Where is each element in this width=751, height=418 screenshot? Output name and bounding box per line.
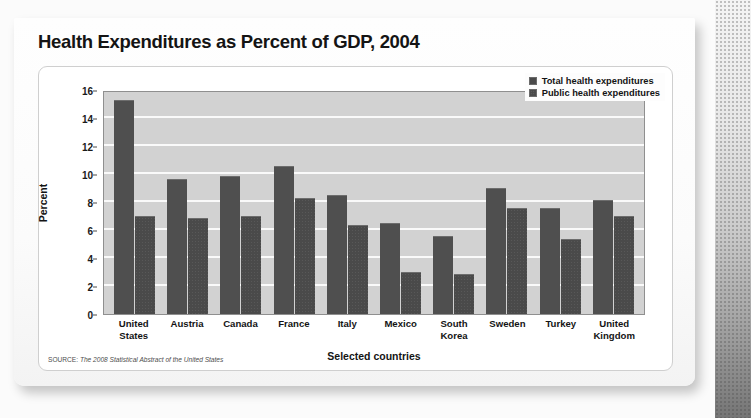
- bar-group: [486, 92, 527, 314]
- x-tick-label: Canada: [219, 318, 262, 341]
- source-note: SOURCE: The 2008 Statistical Abstract of…: [48, 356, 223, 363]
- bar-public: [454, 274, 474, 314]
- legend-label: Total health expenditures: [542, 76, 654, 86]
- x-tick-label: Austria: [166, 318, 209, 341]
- plot-area: [103, 91, 645, 315]
- bar-total: [486, 188, 506, 314]
- bar-group: [327, 92, 368, 314]
- y-tick-mark: [93, 203, 97, 204]
- bar-public: [401, 272, 421, 314]
- bar-total: [380, 223, 400, 314]
- bar-group: [433, 92, 474, 314]
- bar-total: [114, 100, 134, 314]
- y-tick-label: 16: [82, 86, 93, 97]
- bar-public: [295, 198, 315, 314]
- bar-public: [561, 239, 581, 314]
- bars-layer: [104, 92, 644, 314]
- legend-swatch-icon: [529, 89, 537, 97]
- legend-item: Public health expenditures: [529, 88, 660, 98]
- bar-public: [614, 216, 634, 314]
- x-tick-label: Turkey: [539, 318, 582, 341]
- bar-group: [220, 92, 261, 314]
- legend-swatch-icon: [529, 77, 537, 85]
- bar-group: [380, 92, 421, 314]
- bar-public: [507, 208, 527, 314]
- x-tick-label: Italy: [326, 318, 369, 341]
- y-tick-mark: [93, 147, 97, 148]
- y-axis-title: Percent: [37, 91, 51, 315]
- y-tick-mark: [93, 287, 97, 288]
- source-title: The 2008 Statistical Abstract of the Uni…: [80, 356, 223, 363]
- y-tick-mark: [93, 91, 97, 92]
- legend-label: Public health expenditures: [542, 88, 660, 98]
- y-tick-mark: [93, 259, 97, 260]
- plot-wrapper: [103, 91, 645, 315]
- source-prefix: SOURCE:: [48, 356, 78, 363]
- chart-frame: Percent 0246810121416 UnitedStatesAustri…: [38, 66, 673, 371]
- y-tick-mark: [93, 175, 97, 176]
- x-tick-label: UnitedKingdom: [593, 318, 636, 341]
- y-tick-mark: [93, 231, 97, 232]
- y-tick-label: 14: [82, 114, 93, 125]
- y-axis-ticks: 0246810121416: [69, 91, 97, 315]
- chart-card: Health Expenditures as Percent of GDP, 2…: [14, 18, 695, 386]
- bar-group: [114, 92, 155, 314]
- bar-public: [135, 216, 155, 314]
- chart-legend: Total health expendituresPublic health e…: [525, 73, 665, 101]
- page-edge-texture: [715, 0, 751, 418]
- x-tick-label: Mexico: [379, 318, 422, 341]
- bar-group: [593, 92, 634, 314]
- x-tick-label: Sweden: [486, 318, 529, 341]
- x-tick-label: France: [272, 318, 315, 341]
- y-tick-mark: [93, 315, 97, 316]
- bar-total: [327, 195, 347, 314]
- x-tick-label: SouthKorea: [433, 318, 476, 341]
- y-tick-label: 10: [82, 170, 93, 181]
- bar-total: [167, 179, 187, 314]
- bar-total: [540, 208, 560, 314]
- y-tick-mark: [93, 119, 97, 120]
- bar-public: [188, 218, 208, 314]
- bar-group: [540, 92, 581, 314]
- page-title: Health Expenditures as Percent of GDP, 2…: [38, 31, 420, 53]
- x-tick-label: UnitedStates: [112, 318, 155, 341]
- bar-total: [433, 236, 453, 314]
- bar-public: [241, 216, 261, 314]
- bar-total: [220, 176, 240, 314]
- bar-group: [274, 92, 315, 314]
- y-tick-label: 12: [82, 142, 93, 153]
- legend-item: Total health expenditures: [529, 76, 660, 86]
- bar-public: [348, 225, 368, 314]
- x-axis-tick-labels: UnitedStatesAustriaCanadaFranceItalyMexi…: [103, 318, 645, 341]
- bar-group: [167, 92, 208, 314]
- bar-total: [274, 166, 294, 314]
- bar-total: [593, 200, 613, 314]
